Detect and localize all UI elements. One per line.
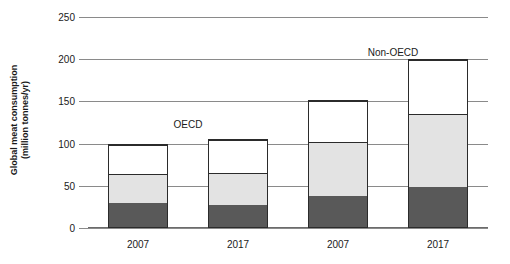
bar-segment-bottom-segment [409, 187, 467, 227]
bar-segment-bottom-segment [209, 205, 267, 227]
y-axis-tick-label: 250 [58, 12, 75, 23]
x-axis-label-1: 2007 [127, 239, 149, 250]
bar-segment-middle-segment [209, 173, 267, 204]
chart-container: Global meat consumption (million tonnes/… [0, 0, 510, 264]
x-axis-label-4: 2017 [427, 239, 449, 250]
y-axis-tick-label: 200 [58, 54, 75, 65]
bar-segment-top-segment [309, 101, 367, 143]
y-axis-tick [79, 59, 88, 60]
bar-3 [308, 100, 368, 228]
y-axis-tick-label: 0 [69, 223, 75, 234]
y-axis-title: Global meat consumption (million tonnes/… [0, 0, 40, 240]
gridline [88, 228, 488, 229]
y-axis-title-line1: Global meat consumption [9, 65, 19, 176]
bar-segment-top-segment [209, 140, 267, 173]
bar-segment-top-segment [109, 145, 167, 175]
x-axis-label-3: 2007 [327, 239, 349, 250]
y-axis-tick-label: 100 [58, 138, 75, 149]
gridline [88, 17, 488, 18]
bar-segment-top-segment [409, 60, 467, 114]
y-axis-tick [79, 186, 88, 187]
x-axis-label-2: 2017 [227, 239, 249, 250]
plot-area: 050100150200250 [88, 17, 488, 228]
bar-segment-bottom-segment [309, 196, 367, 227]
annotation-non-oecd: Non-OECD [368, 47, 419, 58]
bar-segment-middle-segment [409, 114, 467, 187]
y-axis-title-line2: (million tonnes/yr) [20, 65, 31, 176]
bar-2 [208, 139, 268, 228]
bar-segment-middle-segment [109, 174, 167, 203]
y-axis-tick [79, 228, 88, 229]
y-axis-tick [79, 17, 88, 18]
bar-segment-bottom-segment [109, 203, 167, 227]
bar-1 [108, 144, 168, 228]
y-axis-tick [79, 144, 88, 145]
annotation-oecd: OECD [174, 119, 203, 130]
y-axis-tick [79, 101, 88, 102]
bar-segment-middle-segment [309, 142, 367, 196]
bar-4 [408, 59, 468, 228]
y-axis-tick-label: 150 [58, 96, 75, 107]
y-axis-tick-label: 50 [64, 180, 75, 191]
